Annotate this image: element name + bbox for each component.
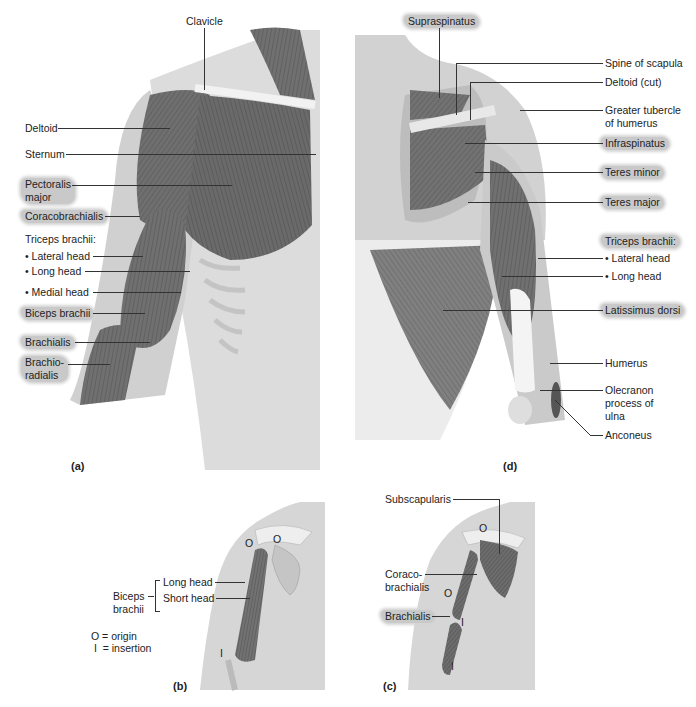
label-brachialis-c: Brachialis xyxy=(381,610,435,623)
marker-insertion-c2: I xyxy=(451,660,454,673)
marker-insertion: I xyxy=(220,647,223,660)
panel-a-anterior-view: Clavicle Deltoid Sternum Pectoralis majo… xyxy=(0,0,350,480)
label-biceps-brachii-group: Biceps brachii xyxy=(113,590,145,616)
label-triceps-lateral-head: • Lateral head xyxy=(25,250,90,263)
leader-brachioradialis xyxy=(68,364,110,365)
legend-origin: O = origin xyxy=(91,630,137,642)
leader-biceps-long-head xyxy=(215,582,245,583)
leader-clavicle xyxy=(204,28,205,90)
label-coracobrachialis-c: Coraco- brachialis xyxy=(385,568,429,594)
leader-coracobrachialis-c xyxy=(425,574,477,575)
leader-coracobrachialis xyxy=(105,216,140,217)
leader-brachialis xyxy=(75,342,150,343)
leader-triceps-long-head xyxy=(85,271,190,272)
label-biceps-short-head: Short head xyxy=(163,592,214,605)
panel-d-posterior-view: Supraspinatus Spine of scapula Deltoid (… xyxy=(350,0,696,480)
legend-insertion: I = insertion xyxy=(91,642,151,654)
leader-subscapularis-vertical xyxy=(499,499,500,554)
label-triceps-medial-head: • Medial head xyxy=(25,286,89,299)
marker-origin-1: O xyxy=(245,537,253,550)
label-brachialis: Brachialis xyxy=(21,336,75,349)
label-pectoralis-major: Pectoralis major xyxy=(21,178,75,204)
label-biceps-brachii: Biceps brachii xyxy=(21,307,94,320)
marker-origin-c2: O xyxy=(444,587,452,600)
leader-biceps-short-head xyxy=(216,598,250,599)
bracket-bottom xyxy=(155,611,160,612)
marker-insertion-c1: I xyxy=(461,616,464,629)
bracket-top xyxy=(155,580,160,581)
label-deltoid: Deltoid xyxy=(25,122,58,135)
label-subscapularis: Subscapularis xyxy=(385,493,451,506)
marker-origin-c1: O xyxy=(479,522,487,535)
panel-label-b: (b) xyxy=(173,680,187,692)
label-clavicle: Clavicle xyxy=(186,15,223,28)
leader-deltoid xyxy=(58,128,170,129)
leader-pectoralis-major xyxy=(72,185,232,186)
leader-triceps-medial-head xyxy=(93,292,181,293)
label-coracobrachialis: Coracobrachialis xyxy=(21,210,107,223)
label-biceps-long-head: Long head xyxy=(163,576,213,589)
label-triceps-brachii: Triceps brachii: xyxy=(25,233,96,246)
leader-brachialis-c xyxy=(432,616,450,617)
label-triceps-long-head: • Long head xyxy=(25,265,81,278)
leader-sternum xyxy=(66,154,316,155)
leader-triceps-lateral-head xyxy=(93,256,143,257)
panel-label-a: (a) xyxy=(71,460,84,472)
leader-anconeus-diagonal xyxy=(350,0,696,480)
panel-c-subscapularis: Subscapularis Coraco- brachialis Brachia… xyxy=(350,490,696,707)
leader-subscapularis xyxy=(453,499,499,500)
label-brachioradialis: Brachio- radialis xyxy=(21,356,68,382)
panel-label-c: (c) xyxy=(383,680,396,692)
leader-biceps-brachii xyxy=(93,313,145,314)
bracket-biceps xyxy=(155,580,156,611)
panel-b-biceps: Biceps brachii Long head Short head O O … xyxy=(0,490,350,707)
marker-origin-2: O xyxy=(273,533,281,546)
label-sternum: Sternum xyxy=(25,148,65,161)
panel-label-d: (d) xyxy=(503,460,517,472)
leader-biceps-bracket xyxy=(148,596,154,597)
subscapularis-illustration xyxy=(350,490,696,707)
